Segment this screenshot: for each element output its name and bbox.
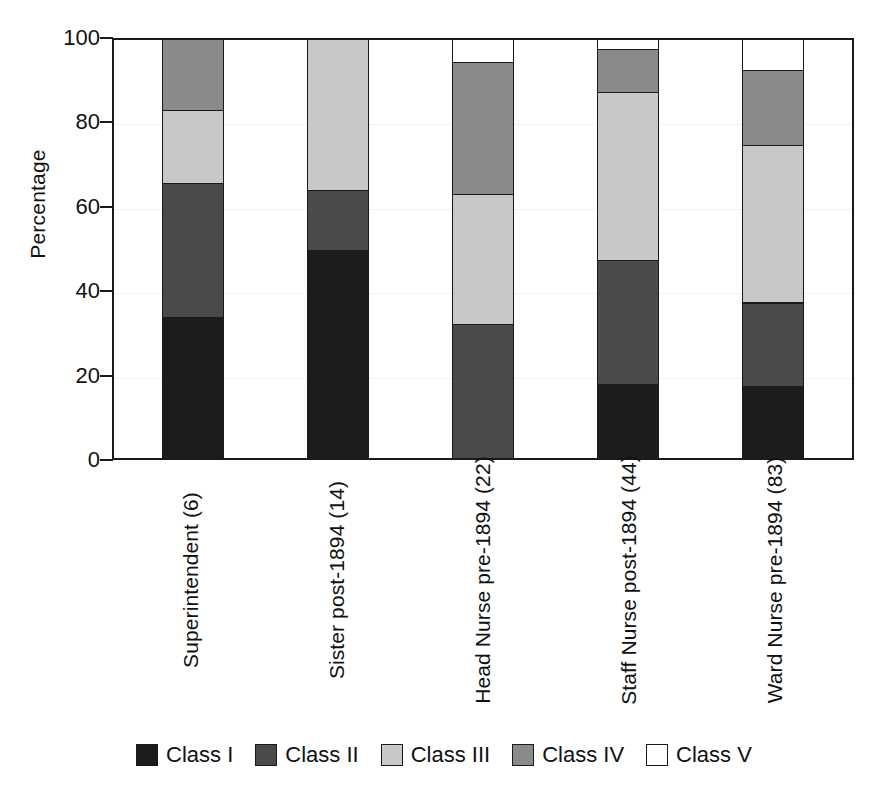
bar-segment[interactable] bbox=[162, 183, 224, 318]
x-axis-tick-labels: Superintendent (6)Sister post-1894 (14)H… bbox=[112, 462, 854, 727]
y-axis-ticks: 020406080100 bbox=[20, 0, 100, 800]
legend-item[interactable]: Class IV bbox=[512, 744, 624, 766]
legend-swatch-icon bbox=[646, 744, 668, 766]
legend-item[interactable]: Class V bbox=[646, 744, 752, 766]
bar-segment[interactable] bbox=[307, 190, 369, 251]
bar-segment[interactable] bbox=[742, 145, 804, 303]
x-axis-tick-label: Sister post-1894 (14) bbox=[325, 481, 349, 679]
chart-legend: Class IClass IIClass IIIClass IVClass V bbox=[0, 744, 888, 766]
x-axis-tick-label-slot: Staff Nurse post-1894 (44) bbox=[598, 462, 660, 727]
bar-group bbox=[114, 40, 852, 458]
x-axis-tick-label: Staff Nurse post-1894 (44) bbox=[617, 455, 641, 705]
stacked-bar[interactable] bbox=[597, 40, 659, 458]
x-axis-tick-label: Ward Nurse pre-1894 (83) bbox=[763, 457, 787, 704]
y-axis-tick-label: 0 bbox=[40, 449, 100, 471]
legend-label: Class III bbox=[411, 744, 490, 766]
x-axis-tick-label-slot: Ward Nurse pre-1894 (83) bbox=[744, 462, 806, 727]
legend-swatch-icon bbox=[381, 744, 403, 766]
bar-segment[interactable] bbox=[162, 110, 224, 184]
y-axis-tick-label: 60 bbox=[40, 196, 100, 218]
y-axis-tick-label: 100 bbox=[40, 27, 100, 49]
legend-item[interactable]: Class II bbox=[255, 744, 358, 766]
stacked-bar[interactable] bbox=[742, 40, 804, 458]
stacked-bar[interactable] bbox=[307, 40, 369, 458]
bar-segment[interactable] bbox=[742, 70, 804, 146]
bar-segment[interactable] bbox=[742, 39, 804, 71]
bar-segment[interactable] bbox=[597, 260, 659, 384]
x-axis-tick-label: Superintendent (6) bbox=[179, 492, 203, 668]
bar-segment[interactable] bbox=[307, 39, 369, 190]
x-axis-tick-label-slot: Sister post-1894 (14) bbox=[306, 462, 368, 727]
legend-label: Class I bbox=[166, 744, 233, 766]
bar-segment[interactable] bbox=[597, 49, 659, 93]
stacked-bar-chart: Percentage 020406080100 Superintendent (… bbox=[0, 0, 888, 800]
x-axis-tick-label: Head Nurse pre-1894 (22) bbox=[471, 456, 495, 704]
bar-segment[interactable] bbox=[742, 386, 804, 458]
bar-segment[interactable] bbox=[162, 39, 224, 111]
bar-segment[interactable] bbox=[307, 250, 369, 458]
bar-segment[interactable] bbox=[452, 39, 514, 63]
bar-segment[interactable] bbox=[597, 384, 659, 458]
x-axis-tick-label-slot: Superintendent (6) bbox=[160, 462, 222, 727]
stacked-bar[interactable] bbox=[162, 40, 224, 458]
bar-segment[interactable] bbox=[452, 62, 514, 195]
bar-segment[interactable] bbox=[742, 303, 804, 387]
x-axis-tick-label-slot: Head Nurse pre-1894 (22) bbox=[452, 462, 514, 727]
bar-segment[interactable] bbox=[162, 317, 224, 458]
y-axis-tick-label: 40 bbox=[40, 280, 100, 302]
legend-item[interactable]: Class I bbox=[136, 744, 233, 766]
stacked-bar[interactable] bbox=[452, 40, 514, 458]
legend-swatch-icon bbox=[512, 744, 534, 766]
plot-area bbox=[112, 38, 854, 460]
legend-swatch-icon bbox=[136, 744, 158, 766]
bar-segment[interactable] bbox=[452, 194, 514, 325]
bar-segment[interactable] bbox=[597, 92, 659, 261]
y-axis-tick-label: 20 bbox=[40, 365, 100, 387]
bar-segment[interactable] bbox=[452, 324, 514, 458]
legend-swatch-icon bbox=[255, 744, 277, 766]
legend-label: Class V bbox=[676, 744, 752, 766]
legend-label: Class IV bbox=[542, 744, 624, 766]
y-axis-tick-label: 80 bbox=[40, 111, 100, 133]
legend-label: Class II bbox=[285, 744, 358, 766]
legend-item[interactable]: Class III bbox=[381, 744, 490, 766]
